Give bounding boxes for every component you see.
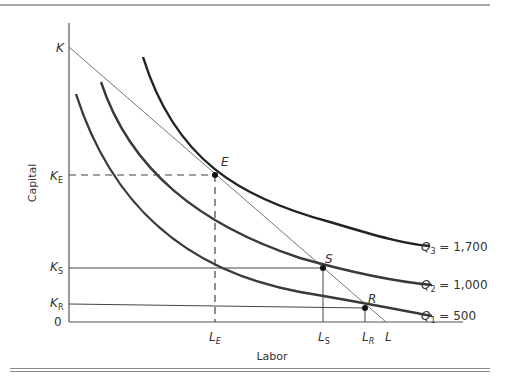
q1-label: Q1 = 500 (421, 309, 476, 325)
q3-value: = 1,700 (436, 240, 488, 254)
ls-base: L (318, 330, 325, 344)
q1-base: Q (421, 309, 430, 323)
ls-sub: S (325, 337, 330, 346)
point-s-label: S (325, 252, 333, 266)
point-e (212, 172, 218, 178)
point-e-label: E (221, 155, 229, 169)
ke-sub: E (58, 176, 63, 185)
q1-value: = 500 (436, 309, 477, 323)
isoquant-q3 (143, 57, 430, 246)
q3-label: Q3 = 1,700 (421, 240, 488, 256)
x-intercept-l-label: L (385, 330, 392, 344)
isocost-line (69, 47, 386, 322)
kr-label: KR (50, 296, 64, 312)
ke-label: KE (50, 169, 63, 185)
point-r-label: R (368, 292, 376, 306)
le-label: LE (209, 330, 222, 346)
origin-label: 0 (54, 315, 62, 329)
guide-kr (69, 304, 365, 308)
le-base: L (209, 330, 216, 344)
y-intercept-k-label: K (56, 41, 65, 55)
isoquant-q1 (76, 94, 432, 316)
isoquant-diagram: E S R K KE KS KR 0 Capital LE LS LR L La… (0, 0, 509, 385)
isoquant-q2 (101, 82, 432, 285)
ks-label: KS (50, 260, 63, 276)
y-axis-title: Capital (26, 164, 39, 203)
lr-base: L (362, 330, 369, 344)
ls-label: LS (318, 330, 330, 346)
kr-sub: R (58, 303, 64, 312)
x-axis-title: Labor (256, 350, 288, 363)
q3-base: Q (421, 240, 430, 254)
q2-base: Q (421, 278, 430, 292)
q2-label: Q2 = 1,000 (421, 278, 488, 294)
ks-sub: S (58, 267, 63, 276)
le-sub: E (216, 337, 222, 346)
lr-sub: R (369, 337, 375, 346)
q2-value: = 1,000 (436, 278, 488, 292)
lr-label: LR (362, 330, 374, 346)
